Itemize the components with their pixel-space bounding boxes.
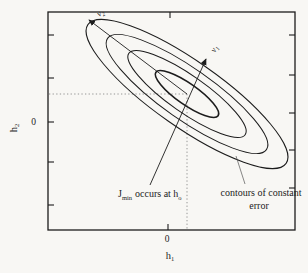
error-surface-figure: ν2 ν1 0 0 h2 h1 Jminoccurs at ho contour… <box>0 0 308 273</box>
contours-label-line2: error <box>249 200 269 211</box>
y-axis-title: h2 <box>8 124 20 133</box>
contours-label-line1: contours of constant <box>220 187 301 198</box>
principal-axis-v2-arrow <box>89 20 187 94</box>
jmin-annotation: Jminoccurs at ho <box>118 188 182 201</box>
contour-plot-canvas: ν2 ν1 0 0 h2 h1 Jminoccurs at ho contour… <box>0 0 308 273</box>
v1-axis-label: ν1 <box>208 43 221 54</box>
contours-label-leader-line <box>236 156 245 184</box>
principal-axis-v1-arrow <box>150 59 206 185</box>
y-axis-zero-label: 0 <box>31 117 36 127</box>
x-axis-title: h1 <box>166 250 175 262</box>
x-axis-zero-label: 0 <box>165 234 170 244</box>
v2-axis-label: ν2 <box>95 7 107 20</box>
